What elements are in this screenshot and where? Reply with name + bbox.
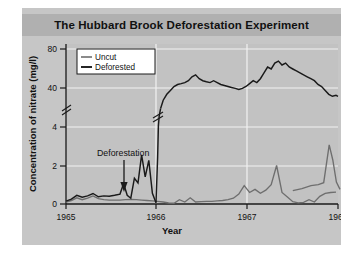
y-tick-label-2: 2 (52, 161, 57, 171)
x-tick-label-1965: 1965 (57, 212, 76, 222)
y-tick-label-4: 4 (52, 122, 57, 132)
legend-label-uncut: Uncut (95, 53, 117, 62)
x-tick-label-1968: 1968 (329, 212, 341, 222)
annotation-label: Deforestation (97, 148, 149, 158)
y-tick-label-80: 80 (48, 44, 58, 54)
x-tick-marks (66, 204, 338, 209)
y-tick-label-0: 0 (52, 199, 57, 209)
y-tick-label-40: 40 (48, 83, 58, 93)
y-axis-title: Concentration of nitrate (mg/l) (27, 56, 38, 192)
x-axis-title: Year (162, 225, 182, 236)
figure-panel: The Hubbard Brook Deforestation Experime… (22, 8, 341, 245)
x-tick-label-1967: 1967 (238, 212, 257, 222)
chart-svg: 80 40 4 2 0 1965 1966 1967 1968 Year Con… (22, 8, 341, 245)
y-tick-marks (60, 49, 66, 204)
plot-area: 80 40 4 2 0 1965 1966 1967 1968 Year Con… (22, 8, 341, 245)
legend-label-deforested: Deforested (95, 63, 135, 72)
x-tick-label-1966: 1966 (147, 212, 166, 222)
